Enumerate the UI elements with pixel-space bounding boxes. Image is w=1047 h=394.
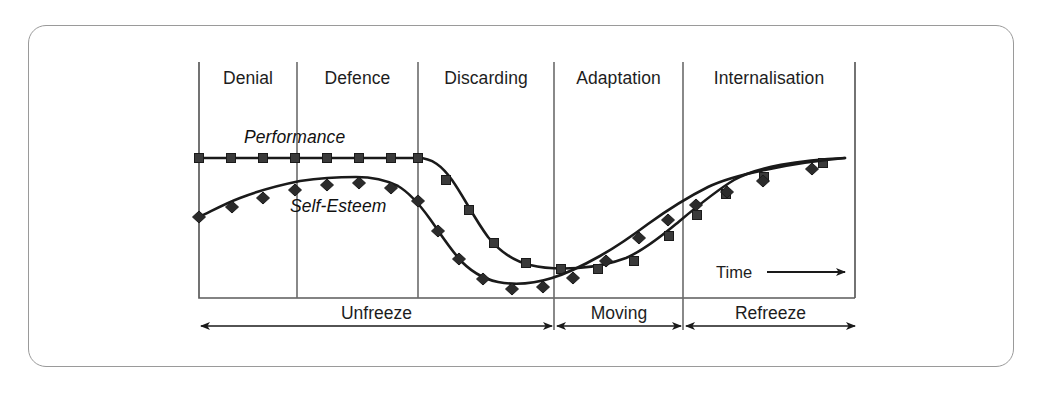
phase-label-discarding: Discarding [418,68,554,89]
phase-label-adaptation: Adaptation [554,68,683,89]
series-label-self-esteem: Self-Esteem [290,196,386,217]
change-curve-chart [0,0,1047,394]
phase-label-internalisation: Internalisation [683,68,855,89]
phase-label-denial: Denial [199,68,297,89]
phase-label-defence: Defence [297,68,418,89]
stage-label-unfreeze: Unfreeze [201,303,552,324]
time-axis-label: Time [716,263,752,282]
stage-label-refreeze: Refreeze [686,303,855,324]
stage-label-moving: Moving [557,303,681,324]
series-label-performance: Performance [244,127,345,148]
figure-stage: Denial Defence Discarding Adaptation Int… [0,0,1047,394]
